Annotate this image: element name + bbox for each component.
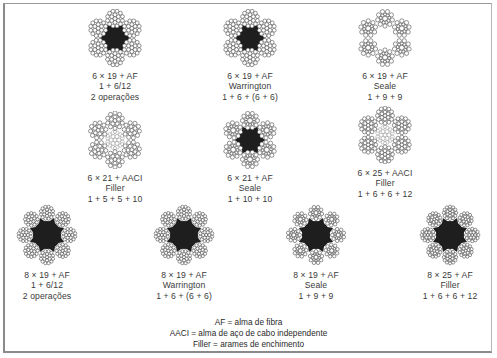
rope-type: Filler: [423, 280, 478, 290]
rope-cross-section-icon: [153, 204, 215, 266]
rope-type: Warrington: [222, 81, 278, 91]
rope-construction: 6 × 21 + AF: [227, 173, 273, 183]
rope-cross-section-icon: [221, 111, 279, 169]
rope-layers: 2 operações: [91, 92, 139, 102]
rope-caption: 8 × 19 + AF Seale 1 + 9 + 9: [293, 270, 339, 301]
legend-aaci: AACI = alma de aço de cabo independente: [30, 327, 467, 338]
rope-type: Seale: [362, 81, 408, 91]
rope-type: Warrington: [156, 280, 212, 290]
rope-8x19-af-seale: 8 × 19 + AF Seale 1 + 9 + 9: [256, 204, 376, 301]
rope-construction: 6 × 19 + AF: [91, 71, 139, 81]
rope-construction: 6 × 21 + AACI: [88, 173, 143, 183]
rope-layers: 1 + 5 + 5 + 10: [88, 194, 143, 204]
rope-cross-section-icon: [356, 106, 414, 164]
rope-caption: 6 × 19 + AF 1 + 6/12 2 operações: [91, 71, 139, 102]
rope-cross-section-icon: [86, 111, 144, 169]
rope-construction: 6 × 19 + AF: [222, 71, 278, 81]
rope-caption: 8 × 19 + AF Warrington 1 + 6 + (6 + 6): [156, 270, 212, 301]
legend-af: AF = alma de fibra: [30, 316, 467, 327]
rope-cross-section-icon: [16, 204, 78, 266]
rope-caption: 6 × 21 + AACI Filler 1 + 5 + 5 + 10: [88, 173, 143, 204]
rope-type: Seale: [227, 183, 273, 193]
rope-layers: 2 operações: [23, 291, 71, 301]
rope-construction: 6 × 25 + AACI: [358, 168, 413, 178]
rope-6x25-aaci-filler: 6 × 25 + AACI Filler 1 + 6 + 6 + 12: [325, 106, 445, 199]
rope-type: 1 + 6/12: [23, 280, 71, 290]
rope-construction: 8 × 19 + AF: [156, 270, 212, 280]
rope-cross-section-icon: [285, 204, 347, 266]
rope-construction: 8 × 25 + AF: [423, 270, 478, 280]
legend-filler: Filler = arames de enchimento: [30, 338, 467, 349]
rope-caption: 6 × 21 + AF Seale 1 + 10 + 10: [227, 173, 273, 204]
rope-8x19-af-warrington: 8 × 19 + AF Warrington 1 + 6 + (6 + 6): [124, 204, 244, 301]
rope-caption: 8 × 19 + AF 1 + 6/12 2 operações: [23, 270, 71, 301]
rope-cross-section-icon: [356, 9, 414, 67]
rope-layers: 1 + 6 + 6 + 12: [358, 189, 413, 199]
rope-layers: 1 + 9 + 9: [362, 92, 408, 102]
rope-construction: 8 × 19 + AF: [23, 270, 71, 280]
rope-construction: 6 × 19 + AF: [362, 71, 408, 81]
rope-caption: 8 × 25 + AF Filler 1 + 6 + 6 + 12: [423, 270, 478, 301]
rope-layers: 1 + 6 + (6 + 6): [156, 291, 212, 301]
rope-6x19-af-warrington: 6 × 19 + AF Warrington 1 + 6 + (6 + 6): [190, 9, 310, 102]
rope-cross-section-icon: [419, 204, 481, 266]
legend: AF = alma de fibra AACI = alma de aço de…: [0, 316, 497, 350]
rope-type: Filler: [88, 183, 143, 193]
rope-layers: 1 + 10 + 10: [227, 194, 273, 204]
rope-type: 1 + 6/12: [91, 81, 139, 91]
rope-layers: 1 + 6 + 6 + 12: [423, 291, 478, 301]
rope-6x19-af-seale: 6 × 19 + AF Seale 1 + 9 + 9: [325, 9, 445, 102]
rope-layers: 1 + 9 + 9: [293, 291, 339, 301]
rope-layers: 1 + 6 + (6 + 6): [222, 92, 278, 102]
rope-caption: 6 × 19 + AF Warrington 1 + 6 + (6 + 6): [222, 71, 278, 102]
rope-type: Filler: [358, 178, 413, 188]
rope-type: Seale: [293, 280, 339, 290]
rope-caption: 6 × 19 + AF Seale 1 + 9 + 9: [362, 71, 408, 102]
rope-8x19-af-2op: 8 × 19 + AF 1 + 6/12 2 operações: [0, 204, 107, 301]
rope-6x19-af-2op: 6 × 19 + AF 1 + 6/12 2 operações: [55, 9, 175, 102]
rope-construction: 8 × 19 + AF: [293, 270, 339, 280]
rope-8x25-af-filler: 8 × 25 + AF Filler 1 + 6 + 6 + 12: [390, 204, 497, 301]
rope-cross-section-icon: [221, 9, 279, 67]
rope-caption: 6 × 25 + AACI Filler 1 + 6 + 6 + 12: [358, 168, 413, 199]
rope-6x21-aaci-filler: 6 × 21 + AACI Filler 1 + 5 + 5 + 10: [55, 111, 175, 204]
rope-cross-section-icon: [86, 9, 144, 67]
rope-6x21-af-seale: 6 × 21 + AF Seale 1 + 10 + 10: [190, 111, 310, 204]
